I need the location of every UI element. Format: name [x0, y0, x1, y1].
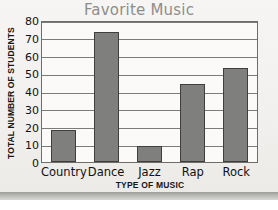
y-tick-label: 0: [3, 157, 39, 170]
y-tick-label: 80: [3, 15, 39, 28]
bar-slot: [171, 22, 214, 162]
chart-screenshot: Favorite Music TOTAL NUMBER OF STUDENTS …: [0, 0, 278, 210]
x-axis-title: TYPE OF MUSIC: [41, 180, 259, 190]
y-tick-label: 60: [3, 50, 39, 63]
y-tick-label: 70: [3, 32, 39, 45]
page-edge-below: [0, 200, 278, 210]
bar-slot: [128, 22, 171, 162]
bar-jazz: [137, 146, 163, 162]
bar-slot: [214, 22, 257, 162]
bar-rock: [223, 68, 249, 162]
bar-series: [42, 22, 257, 162]
bar-dance: [94, 32, 120, 162]
bar-rap: [180, 84, 206, 162]
y-axis-tick-labels: 80706050403020100: [0, 21, 39, 163]
x-tick-label: Country: [41, 164, 84, 180]
bar-slot: [85, 22, 128, 162]
bar-country: [51, 130, 77, 162]
x-tick-label: Jazz: [128, 164, 171, 180]
x-tick-label: Dance: [84, 164, 127, 180]
plot-area: [41, 21, 258, 163]
y-tick-label: 50: [3, 68, 39, 81]
y-tick-label: 10: [3, 139, 39, 152]
chart-title: Favorite Music: [0, 1, 278, 19]
x-tick-label: Rock: [215, 164, 258, 180]
x-axis-tick-labels: CountryDanceJazzRapRock: [41, 164, 258, 180]
y-tick-label: 20: [3, 121, 39, 134]
bar-slot: [42, 22, 85, 162]
page-edge-shadow: [0, 192, 278, 200]
x-tick-label: Rap: [171, 164, 214, 180]
y-tick-label: 30: [3, 103, 39, 116]
y-tick-label: 40: [3, 86, 39, 99]
